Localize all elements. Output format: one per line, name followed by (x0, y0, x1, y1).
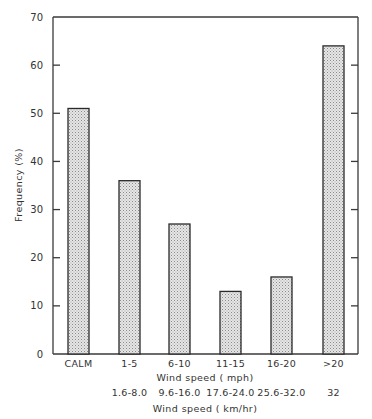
bar-1-5 (119, 181, 140, 354)
secondary-category-label: 9.6-16.0 (158, 387, 200, 398)
y-axis-title: Frequency (%) (13, 148, 24, 222)
plot-frame (53, 17, 358, 354)
y-tick-label: 40 (30, 156, 43, 167)
y-tick-label: 30 (30, 204, 43, 215)
secondary-category-labels: 1.6-8.09.6-16.017.6-24.025.6-32.032 (112, 387, 340, 398)
y-tick-label: 20 (30, 252, 43, 263)
bar-16-20 (271, 277, 292, 354)
bar-calm (68, 108, 89, 354)
bar-11-15 (220, 291, 241, 354)
category-label: 6-10 (168, 358, 191, 369)
x-axis-secondary-title: Wind speed ( km/hr) (153, 403, 258, 414)
secondary-category-label: 1.6-8.0 (112, 387, 148, 398)
category-label: 16-20 (267, 358, 296, 369)
bar-20 (323, 46, 344, 354)
x-axis-title: Wind speed ( mph) (156, 372, 253, 383)
y-tick-label: 60 (30, 60, 43, 71)
category-label: 1-5 (121, 358, 137, 369)
category-label: 11-15 (216, 358, 245, 369)
bar-6-10 (169, 224, 190, 354)
y-tick-label: 10 (30, 300, 43, 311)
y-tick-label: 50 (30, 108, 43, 119)
category-label: CALM (65, 358, 93, 369)
category-labels: CALM1-56-1011-1516-20>20 (65, 358, 344, 369)
y-tick-label: 70 (30, 12, 43, 23)
bar-chart: 010203040506070 CALM1-56-1011-1516-20>20… (0, 0, 372, 419)
secondary-category-label: 32 (327, 387, 340, 398)
y-tick-label: 0 (37, 349, 43, 360)
category-label: >20 (323, 358, 344, 369)
secondary-category-label: 17.6-24.0 (206, 387, 254, 398)
bars (68, 46, 344, 354)
secondary-category-label: 25.6-32.0 (257, 387, 305, 398)
